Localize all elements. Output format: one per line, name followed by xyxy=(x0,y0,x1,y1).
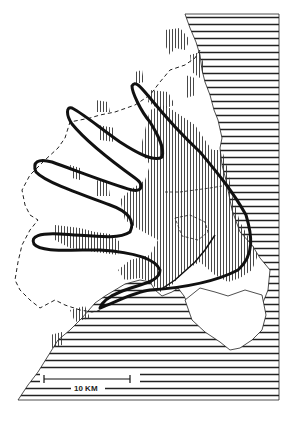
map-canvas: 10 KM xyxy=(0,0,287,425)
urban-patch xyxy=(185,75,196,98)
urban-patch xyxy=(135,70,144,84)
urban-patch xyxy=(95,100,110,112)
scale-bar-label: 10 KM xyxy=(74,384,98,393)
urban-patch xyxy=(165,28,190,55)
